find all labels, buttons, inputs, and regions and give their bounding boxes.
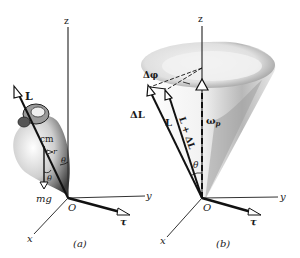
torque-label: τ	[120, 216, 127, 227]
theta-label-1: θ	[61, 156, 66, 165]
precession-diagram: z L cm r θ θ mg O y τ x (a)	[0, 0, 300, 258]
z-axis-label-b: z	[198, 14, 203, 24]
panel-a: z L cm r θ θ mg O y τ x (a)	[13, 16, 152, 249]
x-axis-b	[167, 198, 202, 237]
torque-arrowhead-b	[248, 208, 261, 215]
torque-label-b: τ	[250, 216, 257, 227]
mg-arrowhead	[40, 182, 48, 189]
y-axis	[68, 196, 145, 198]
y-axis-label: y	[145, 190, 152, 201]
cm-label: cm	[40, 134, 54, 144]
torque-arrowhead	[117, 208, 130, 215]
z-axis-label: z	[64, 16, 69, 26]
y-axis-b	[202, 197, 278, 198]
torque-vector	[68, 198, 124, 213]
delta-L-label: ΔL	[130, 109, 145, 120]
theta-label-2: θ	[47, 174, 52, 183]
origin-label: O	[68, 202, 76, 213]
caption-b: (b)	[216, 238, 230, 249]
origin-label-b: O	[203, 202, 211, 213]
x-axis-label-b: x	[160, 235, 166, 246]
mg-label: mg	[36, 193, 52, 204]
y-axis-label-b: y	[279, 191, 286, 202]
x-axis-label: x	[27, 233, 33, 244]
panel-b: z Δφ ΔL L L + ΔL ωp θ O y τ x (b)	[130, 14, 286, 249]
caption-a: (a)	[73, 238, 87, 249]
L-label-b: L	[165, 117, 172, 128]
L-label: L	[25, 90, 33, 103]
theta-label-b: θ	[193, 160, 199, 170]
L-arrowhead	[14, 86, 22, 98]
delta-phi-label: Δφ	[143, 70, 158, 80]
